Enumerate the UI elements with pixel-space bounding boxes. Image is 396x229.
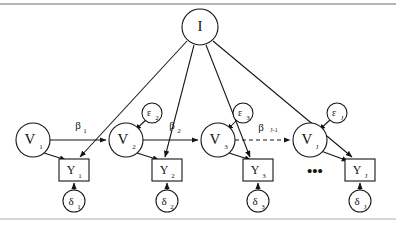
node-y1-subscript: 1: [78, 172, 82, 180]
node-layer: I V 1 V 2 V 3 V J: [16, 9, 375, 212]
node-y1-label: Y: [67, 163, 76, 177]
node-disturbance-d2[interactable]: δ 2: [156, 190, 178, 212]
node-epsj-circle[interactable]: [327, 103, 347, 123]
node-latent-vj[interactable]: V J: [293, 123, 327, 157]
node-observed-yj[interactable]: Y J: [345, 159, 375, 181]
ellipsis-dots: •••: [307, 163, 323, 179]
path-diagram-figure: I V 1 V 2 V 3 V J: [0, 0, 396, 229]
node-delta3-circle[interactable]: [247, 190, 269, 212]
node-delta1-circle[interactable]: [63, 190, 85, 212]
node-v1-subscript: 1: [39, 143, 43, 151]
diagram-canvas: I V 1 V 2 V 3 V J: [0, 0, 396, 229]
node-observed-y3[interactable]: Y 3: [243, 159, 273, 181]
node-disturbance-d1[interactable]: δ 1: [63, 190, 85, 212]
betaJm1-symbol: β: [258, 121, 264, 133]
node-v1-label: V: [25, 131, 36, 147]
edge-label-beta-j-minus-1: β J-1: [258, 121, 277, 134]
node-error-e2[interactable]: ε 2: [142, 103, 162, 123]
node-intercept[interactable]: I: [182, 9, 218, 45]
node-disturbance-dj[interactable]: δ J: [349, 190, 371, 212]
node-disturbance-d3[interactable]: δ 3: [247, 190, 269, 212]
node-eps2-subscript: 2: [155, 114, 159, 122]
node-delta2-circle[interactable]: [156, 190, 178, 212]
node-latent-v2[interactable]: V 2: [109, 123, 143, 157]
node-deltaj-label: δ: [354, 195, 359, 207]
node-epsj-label: ε: [332, 107, 336, 118]
beta1-subscript: 1: [83, 127, 87, 135]
node-delta3-label: δ: [252, 195, 257, 207]
node-observed-y2[interactable]: Y 2: [152, 159, 182, 181]
edge-vj-to-yj: [321, 151, 348, 161]
node-delta3-subscript: 3: [261, 203, 265, 211]
node-y2-subscript: 2: [171, 172, 175, 180]
node-vj-label: V: [302, 131, 313, 147]
node-v2-subscript: 2: [132, 143, 136, 151]
node-eps3-label: ε: [238, 107, 242, 118]
node-error-e3[interactable]: ε 3: [233, 103, 253, 123]
node-eps2-circle[interactable]: [142, 103, 162, 123]
node-eps2-label: ε: [147, 107, 151, 118]
node-delta1-label: δ: [68, 195, 73, 207]
node-latent-v3[interactable]: V 3: [201, 123, 235, 157]
node-eps3-subscript: 3: [246, 114, 250, 122]
node-y3-subscript: 3: [262, 172, 266, 180]
node-delta2-label: δ: [161, 195, 166, 207]
node-delta1-subscript: 1: [77, 203, 81, 211]
node-vj-subscript: J: [316, 143, 319, 151]
node-latent-v1[interactable]: V 1: [16, 123, 50, 157]
node-yj-subscript: J: [365, 172, 368, 180]
node-y2-label: Y: [160, 163, 169, 177]
node-epsj-subscript: J: [341, 114, 344, 122]
node-deltaj-circle[interactable]: [349, 190, 371, 212]
node-v3-label: V: [210, 131, 221, 147]
node-y3-label: Y: [251, 163, 260, 177]
node-v3-subscript: 3: [224, 143, 228, 151]
edge-label-beta1: β 1: [75, 119, 87, 135]
node-delta2-subscript: 2: [170, 203, 174, 211]
node-deltaj-subscript: J: [364, 203, 367, 211]
node-yj-label: Y: [353, 163, 362, 177]
beta2-symbol: β: [169, 119, 175, 131]
beta2-subscript: 2: [177, 127, 181, 135]
node-eps3-circle[interactable]: [233, 103, 253, 123]
node-v2-label: V: [118, 131, 129, 147]
node-intercept-label: I: [198, 18, 203, 34]
beta1-symbol: β: [75, 119, 81, 131]
node-error-ej[interactable]: ε J: [327, 103, 347, 123]
node-observed-y1[interactable]: Y 1: [59, 159, 89, 181]
betaJm1-subscript: J-1: [270, 127, 277, 133]
